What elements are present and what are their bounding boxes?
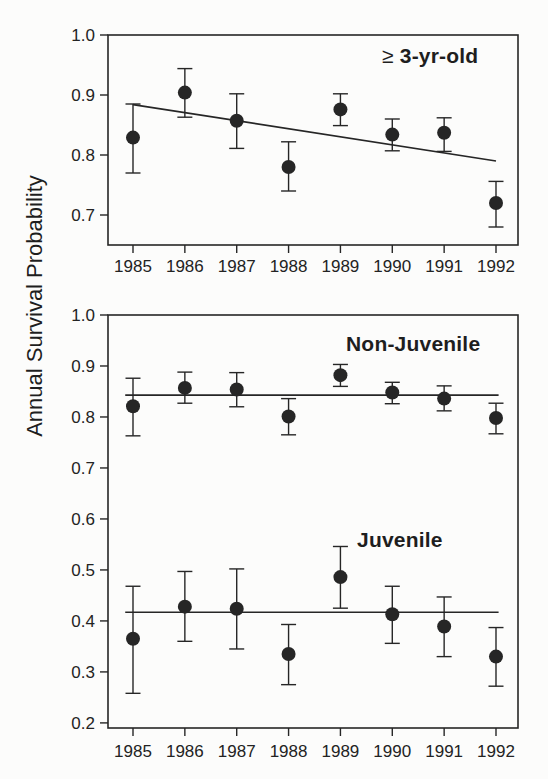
panel-title-3yr-old: ≥ 3-yr-old	[382, 44, 478, 68]
x-tick-label: 1986	[166, 257, 204, 276]
y-tick-label: 0.7	[71, 206, 95, 225]
data-point-juvenile-1988	[282, 647, 296, 661]
x-tick-label: 1992	[477, 742, 515, 761]
x-tick-label: 1988	[270, 742, 308, 761]
data-point-non-juvenile-1992	[489, 411, 503, 425]
y-tick-label: 0.5	[71, 561, 95, 580]
y-tick-label: 0.8	[71, 408, 95, 427]
y-tick-label: 0.8	[71, 146, 95, 165]
panel-title-3yr-old-text: 3-yr-old	[400, 44, 479, 67]
data-point--3-yr-old-1986	[178, 86, 192, 100]
x-tick-label: 1991	[425, 257, 463, 276]
y-tick-label: 0.6	[71, 510, 95, 529]
data-point--3-yr-old-1988	[282, 160, 296, 174]
data-point--3-yr-old-1985	[126, 131, 140, 145]
data-point-non-juvenile-1988	[282, 409, 296, 423]
y-tick-label: 0.2	[71, 714, 95, 733]
data-point--3-yr-old-1987	[230, 114, 244, 128]
data-point-juvenile-1992	[489, 650, 503, 664]
y-tick-label: 0.3	[71, 663, 95, 682]
x-tick-label: 1989	[322, 742, 360, 761]
series-label-non-juvenile: Non-Juvenile	[346, 332, 480, 356]
y-tick-label: 1.0	[71, 26, 95, 45]
greater-equal-symbol: ≥	[382, 44, 394, 67]
data-point-juvenile-1989	[333, 570, 347, 584]
data-point--3-yr-old-1990	[385, 128, 399, 142]
survival-probability-figure: 0.70.80.91.01985198619871988198919901991…	[0, 0, 548, 779]
x-tick-label: 1985	[114, 742, 152, 761]
data-point-juvenile-1990	[385, 607, 399, 621]
x-tick-label: 1988	[270, 257, 308, 276]
series-label-juvenile: Juvenile	[357, 528, 443, 552]
data-point-juvenile-1985	[126, 632, 140, 646]
x-tick-label: 1990	[373, 257, 411, 276]
data-point-non-juvenile-1990	[385, 386, 399, 400]
x-tick-label: 1987	[218, 742, 256, 761]
data-point--3-yr-old-1989	[333, 102, 347, 116]
y-axis-title: Annual Survival Probability	[22, 166, 48, 446]
y-tick-label: 0.4	[71, 612, 95, 631]
data-point--3-yr-old-1992	[489, 196, 503, 210]
y-tick-label: 0.7	[71, 459, 95, 478]
x-tick-label: 1985	[114, 257, 152, 276]
x-tick-label: 1990	[373, 742, 411, 761]
data-point-juvenile-1987	[230, 602, 244, 616]
data-point-non-juvenile-1985	[126, 399, 140, 413]
data-point-non-juvenile-1986	[178, 381, 192, 395]
y-tick-label: 1.0	[71, 306, 95, 325]
x-tick-label: 1989	[322, 257, 360, 276]
x-tick-label: 1991	[425, 742, 463, 761]
panel-frame	[108, 315, 518, 728]
x-tick-label: 1987	[218, 257, 256, 276]
y-tick-label: 0.9	[71, 357, 95, 376]
data-point-non-juvenile-1991	[437, 392, 451, 406]
data-point-non-juvenile-1987	[230, 382, 244, 396]
data-point-juvenile-1991	[437, 620, 451, 634]
chart-svg: 0.70.80.91.01985198619871988198919901991…	[0, 0, 548, 779]
data-point--3-yr-old-1991	[437, 126, 451, 140]
data-point-juvenile-1986	[178, 600, 192, 614]
y-tick-label: 0.9	[71, 86, 95, 105]
x-tick-label: 1992	[477, 257, 515, 276]
data-point-non-juvenile-1989	[333, 368, 347, 382]
x-tick-label: 1986	[166, 742, 204, 761]
